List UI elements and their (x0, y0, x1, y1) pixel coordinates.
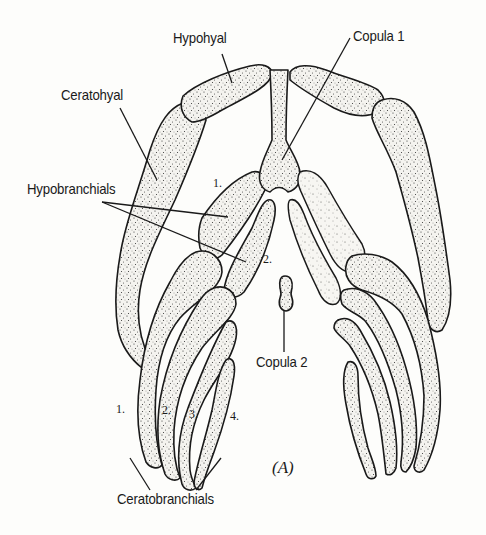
left-hypohyal (181, 65, 272, 122)
hypobranchials-label: Hypobranchials (27, 180, 116, 197)
ceratohyal-label: Ceratohyal (61, 86, 123, 103)
ceratobranchials-label: Ceratobranchials (117, 490, 214, 507)
ceratobranchial-number-4: 4. (230, 409, 239, 424)
right-hypohyal (290, 66, 384, 116)
skeleton-illustration (0, 0, 486, 535)
panel-label: (A) (272, 458, 294, 478)
copula-1 (259, 70, 300, 192)
branchial-skeleton-figure: Hypohyal Copula 1 Ceratohyal Hypobranchi… (0, 0, 486, 535)
copula-2 (279, 276, 293, 311)
copula2-label: Copula 2 (256, 353, 307, 370)
ceratobranchial-number-2: 2. (162, 403, 171, 418)
ceratobranchial-number-3: 3. (189, 407, 198, 422)
hypohyal-label: Hypohyal (173, 29, 227, 46)
ceratobranchial-number-1: 1. (116, 402, 125, 417)
copula1-label: Copula 1 (353, 27, 404, 44)
hypobranchial-number-2: 2. (263, 252, 272, 267)
hypobranchial-number-1: 1. (213, 176, 222, 191)
